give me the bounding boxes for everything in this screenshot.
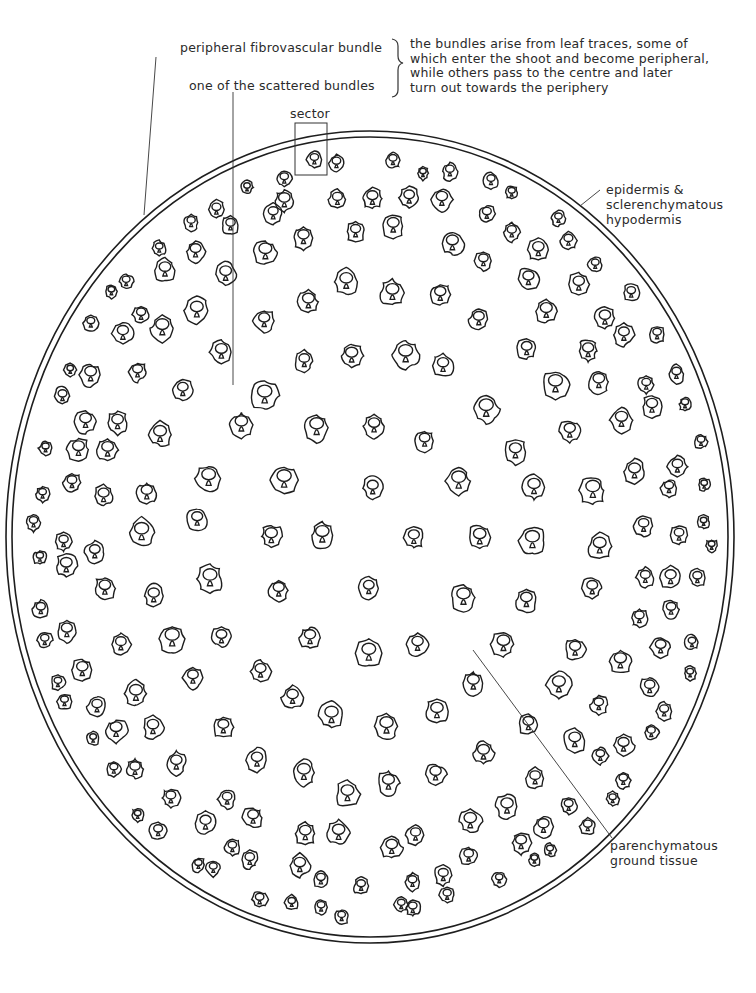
vascular-bundle <box>363 414 384 439</box>
vascular-bundle <box>270 467 298 493</box>
vascular-bundle <box>566 640 586 660</box>
vascular-bundle <box>355 639 382 666</box>
vascular-bundle <box>470 526 491 549</box>
vascular-bundle <box>406 633 429 656</box>
vascular-bundle <box>354 877 369 894</box>
vascular-bundle <box>37 633 53 648</box>
vascular-bundle <box>64 363 77 377</box>
vascular-bundle <box>551 210 565 227</box>
vascular-bundle <box>108 411 127 436</box>
vascular-bundle <box>206 861 221 877</box>
vascular-bundle <box>698 515 710 529</box>
vascular-bundle <box>327 819 350 844</box>
vascular-bundle <box>251 381 279 409</box>
vascular-bundle <box>184 296 208 325</box>
vascular-bundle <box>136 483 156 504</box>
vascular-bundle <box>595 307 615 329</box>
vascular-bundle <box>660 565 680 587</box>
vascular-bundle <box>119 274 134 288</box>
vascular-bundle <box>418 167 429 181</box>
vascular-bundle <box>305 415 328 443</box>
vascular-bundle <box>187 509 207 531</box>
vascular-bundle <box>560 231 577 249</box>
vascular-bundle <box>614 734 635 756</box>
vascular-bundle <box>518 269 539 290</box>
vascular-bundle <box>589 372 609 395</box>
vascular-bundle <box>299 627 320 648</box>
vascular-bundle <box>403 527 422 548</box>
vascular-bundle <box>468 309 487 330</box>
vascular-bundle <box>241 180 253 193</box>
vascular-bundle <box>564 728 585 753</box>
note-line: the bundles arise from leaf traces, some… <box>410 37 709 52</box>
label-peripheral-bundle: peripheral fibrovascular bundle <box>180 40 382 55</box>
vascular-bundle <box>579 818 595 835</box>
vascular-bundle <box>195 811 216 834</box>
vascular-bundle <box>383 215 403 239</box>
vascular-bundle <box>230 412 254 439</box>
vascular-bundle <box>463 672 483 696</box>
label-ground-tissue: parenchymatous ground tissue <box>610 838 718 868</box>
vascular-bundle <box>150 315 173 343</box>
vascular-bundle <box>297 290 318 313</box>
vascular-bundle <box>638 376 654 394</box>
vascular-bundle <box>54 386 69 403</box>
vascular-bundle <box>445 468 471 497</box>
vascular-bundle <box>277 171 292 187</box>
vascular-bundle <box>184 214 198 232</box>
leader-peripheral-bundle <box>144 57 156 215</box>
vascular-bundle <box>695 435 708 448</box>
vascular-bundle <box>306 151 322 168</box>
leader-lines <box>144 57 612 838</box>
vascular-bundle <box>87 731 99 745</box>
vascular-bundle <box>452 585 475 612</box>
vascular-bundle <box>217 791 234 810</box>
vascular-bundle <box>159 627 185 653</box>
vascular-bundle <box>312 522 333 549</box>
vascular-bundle <box>359 576 379 600</box>
vascular-bundle <box>187 241 206 264</box>
note-line: while others pass to the centre and late… <box>410 66 709 81</box>
vascular-bundle <box>624 284 640 301</box>
vascular-bundle <box>96 578 116 600</box>
vascular-bundle <box>72 659 92 681</box>
vascular-bundle <box>152 240 166 256</box>
vascular-bundle <box>294 227 313 251</box>
vascular-bundle <box>335 267 358 294</box>
vascular-bundle <box>33 551 46 564</box>
vascular-bundle <box>128 364 146 383</box>
vascular-bundle <box>392 341 420 370</box>
vascular-bundle <box>435 865 452 887</box>
vascular-bundle <box>379 771 400 796</box>
vascular-bundle <box>214 717 234 736</box>
vascular-bundle <box>106 285 117 299</box>
vascular-bundle <box>592 747 609 765</box>
vascular-bundle <box>130 517 155 546</box>
vascular-bundle <box>284 894 298 909</box>
vascular-bundle <box>223 216 238 234</box>
vascular-bundle <box>536 299 558 323</box>
vascular-bundle <box>56 532 73 551</box>
vascular-bundle <box>460 847 478 864</box>
vascular-bundle <box>66 439 88 462</box>
vascular-bundle <box>363 187 382 208</box>
vascular-bundle <box>335 910 348 924</box>
vascular-bundle <box>505 440 525 466</box>
vascular-bundle <box>483 172 498 189</box>
vascular-bundle <box>667 455 688 477</box>
vascular-bundle <box>242 808 262 827</box>
vascular-bundle <box>132 307 149 323</box>
vascular-bundle <box>579 340 597 362</box>
vascular-bundle <box>315 900 327 915</box>
vascular-bundle <box>474 396 501 425</box>
vascular-bundle <box>633 516 652 537</box>
vascular-bundle <box>545 843 557 857</box>
vascular-bundle <box>275 190 293 213</box>
vascular-bundle <box>84 540 103 563</box>
vascular-bundle <box>569 272 590 295</box>
vascular-bundle <box>212 627 232 647</box>
vascular-bundle <box>517 339 535 360</box>
vascular-bundle <box>544 372 570 400</box>
vascular-bundle <box>645 725 660 740</box>
vascular-bundle <box>459 809 483 833</box>
